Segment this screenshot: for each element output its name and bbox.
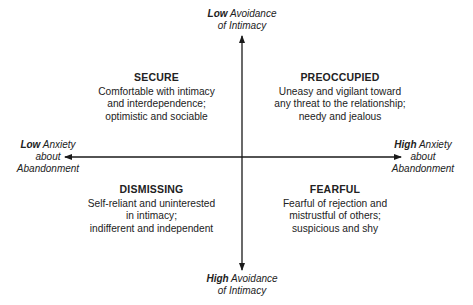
axis-left-line3: Abandonment	[8, 163, 88, 175]
quadrant-fearful-line: Fearful of rejection and	[255, 198, 415, 210]
quadrant-preoccupied-title: PREOCCUPIED	[250, 71, 430, 83]
axis-label-high-avoidance: High Avoidance of Intimacy	[192, 273, 292, 297]
quadrant-secure-line: and interdependence;	[70, 98, 243, 110]
quadrant-fearful-title: FEARFUL	[255, 183, 415, 195]
quadrant-preoccupied-line: any threat to the relationship;	[250, 98, 430, 110]
axis-right-line2: about	[383, 151, 463, 163]
axis-right-rest: Anxiety	[417, 139, 452, 150]
quadrant-secure: SECURE Comfortable with intimacy and int…	[70, 71, 243, 123]
axis-top-bold: Low	[208, 8, 228, 19]
quadrant-dismissing-line: in intimacy;	[70, 210, 233, 222]
quadrant-fearful: FEARFUL Fearful of rejection and mistrus…	[255, 183, 415, 235]
quadrant-fearful-line: mistrustful of others;	[255, 210, 415, 222]
quadrant-secure-line: optimistic and sociable	[70, 111, 243, 123]
axis-label-low-anxiety: Low Anxiety about Abandonment	[8, 139, 88, 175]
axis-right-bold: High	[394, 139, 416, 150]
quadrant-preoccupied-line: needy and jealous	[250, 111, 430, 123]
axis-left-rest: Anxiety	[40, 139, 75, 150]
axis-right-line3: Abandonment	[383, 163, 463, 175]
quadrant-secure-line: Comfortable with intimacy	[70, 86, 243, 98]
quadrant-preoccupied-line: Uneasy and vigilant toward	[250, 86, 430, 98]
axis-bottom-bold: High	[206, 273, 228, 284]
quadrant-dismissing-title: DISMISSING	[70, 183, 233, 195]
quadrant-secure-title: SECURE	[70, 71, 243, 83]
quadrant-preoccupied: PREOCCUPIED Uneasy and vigilant toward a…	[250, 71, 430, 123]
axis-top-line2: of Intimacy	[192, 20, 292, 32]
quadrant-dismissing-line: Self-reliant and uninterested	[70, 198, 233, 210]
quadrant-dismissing-line: indifferent and independent	[70, 223, 233, 235]
axis-top-rest: Avoidance	[228, 8, 277, 19]
axis-left-bold: Low	[20, 139, 40, 150]
axis-bottom-rest: Avoidance	[229, 273, 278, 284]
axis-bottom-line2: of Intimacy	[192, 285, 292, 297]
quadrant-dismissing: DISMISSING Self-reliant and uninterested…	[70, 183, 233, 235]
quadrant-fearful-line: suspicious and shy	[255, 223, 415, 235]
axis-left-line2: about	[8, 151, 88, 163]
axis-label-low-avoidance: Low Avoidance of Intimacy	[192, 8, 292, 32]
axis-label-high-anxiety: High Anxiety about Abandonment	[383, 139, 463, 175]
